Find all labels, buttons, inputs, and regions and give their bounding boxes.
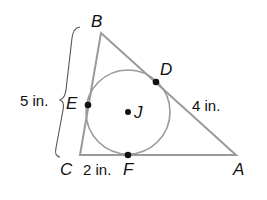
label-c: C	[60, 160, 73, 179]
triangle-abc	[80, 33, 236, 155]
label-j: J	[133, 103, 143, 122]
measure-bc: 5 in.	[20, 92, 48, 109]
point-f	[125, 152, 132, 159]
point-d	[153, 79, 160, 86]
measure-da: 4 in.	[192, 97, 220, 114]
label-b: B	[91, 12, 102, 31]
label-a: A	[232, 160, 244, 179]
label-e: E	[66, 94, 78, 113]
label-d: D	[160, 60, 172, 79]
label-f: F	[123, 160, 135, 179]
brace-bc	[56, 27, 81, 157]
point-e	[85, 102, 92, 109]
measure-cf: 2 in.	[83, 161, 111, 178]
point-j	[125, 109, 131, 115]
incircle-diagram: B C A D E F J 5 in. 4 in. 2 in.	[0, 0, 267, 200]
